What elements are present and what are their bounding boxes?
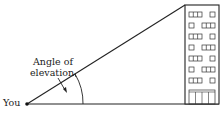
observer-label: You bbox=[3, 98, 20, 108]
building bbox=[185, 5, 219, 104]
angle-label-line1: Angle of bbox=[33, 57, 73, 67]
line-of-sight bbox=[27, 5, 185, 104]
observer-dot bbox=[25, 102, 29, 106]
angle-label-line2: elevation bbox=[30, 68, 74, 78]
angle-arc bbox=[75, 74, 83, 104]
